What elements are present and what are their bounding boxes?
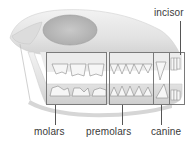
molars-label: molars [34, 126, 65, 137]
premolars-label: premolars [86, 126, 131, 137]
canine-region-box [153, 52, 170, 105]
eye-socket [43, 15, 97, 45]
skull-diagram: incisor molars premolars canine [0, 0, 188, 150]
molars-leader-line [55, 105, 56, 125]
premolars-leader-line [122, 105, 123, 125]
canine-label: canine [151, 126, 181, 137]
incisor-leader-line [180, 21, 181, 55]
canine-leader-line [161, 105, 162, 125]
incisor-region-box [169, 52, 185, 105]
molars-region-box [46, 52, 107, 105]
premolars-region-box [109, 52, 154, 105]
incisor-label: incisor [154, 7, 184, 18]
